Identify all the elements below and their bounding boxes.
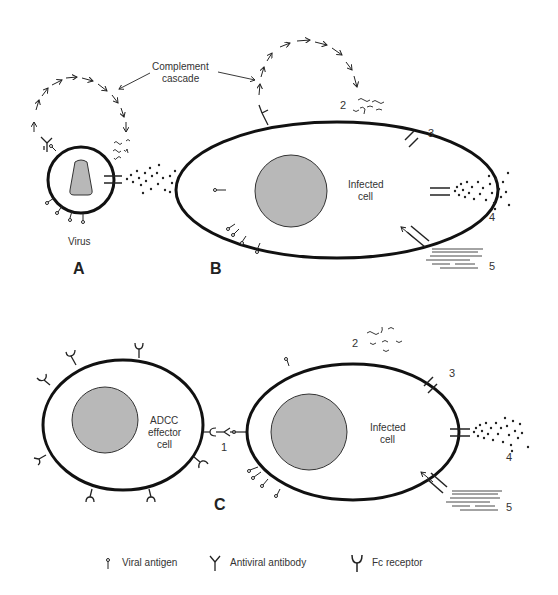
pointer-arrow-b	[218, 72, 255, 80]
viral-antigen-icon	[107, 559, 110, 570]
svg-text:2: 2	[340, 99, 346, 111]
complement-fragments-b	[353, 99, 384, 115]
released-contents-c	[473, 417, 529, 452]
complement-cascade-arrows-a	[34, 77, 126, 132]
panel-c-label: C	[214, 496, 226, 513]
svg-text:cell: cell	[380, 434, 395, 445]
fc-receptor-icon	[352, 555, 362, 572]
svg-text:Complement: Complement	[152, 61, 209, 72]
antiviral-antibody-icon	[259, 105, 268, 125]
svg-text:4: 4	[489, 211, 495, 223]
svg-text:cell: cell	[157, 439, 172, 450]
legend-fc-receptor: Fc receptor	[372, 557, 423, 568]
leaked-lines-c	[446, 491, 502, 510]
panel-a-label: A	[73, 260, 85, 277]
diagram-root: Virus A Complement cascade Infected	[0, 0, 558, 595]
nucleus-c	[271, 394, 347, 470]
pointer-arrow-a	[119, 73, 150, 89]
svg-text:effector: effector	[148, 427, 182, 438]
svg-text:1: 1	[221, 441, 227, 453]
svg-text:3: 3	[428, 127, 434, 139]
panel-c: ADCC effector cell 1 Infected cell	[34, 327, 529, 513]
svg-text:2: 2	[352, 337, 358, 349]
complement-fragments-a	[113, 140, 130, 160]
svg-text:4: 4	[506, 451, 512, 463]
released-contents-a	[126, 164, 176, 194]
complement-cascade-arrows-b	[259, 40, 357, 95]
panel-b-label: B	[210, 260, 222, 277]
leaked-lines-b	[426, 249, 483, 268]
immune-diagram: Virus A Complement cascade Infected	[0, 0, 558, 595]
svg-text:5: 5	[489, 260, 495, 272]
svg-text:cell: cell	[358, 191, 373, 202]
complement-fragments-c	[367, 327, 402, 352]
panel-b: Infected cell	[176, 40, 510, 277]
antiviral-antibody-icon	[210, 556, 220, 571]
adcc-connection	[203, 428, 246, 436]
virus-label: Virus	[68, 236, 91, 247]
svg-text:3: 3	[449, 367, 455, 379]
complement-cascade-label: Complement cascade	[119, 61, 255, 89]
legend-viral-antigen: Viral antigen	[122, 557, 177, 568]
svg-text:cascade: cascade	[162, 73, 200, 84]
nucleus-b	[255, 155, 327, 227]
nucleus-adcc	[72, 387, 138, 453]
legend: Viral antigen Antiviral antibody Fc rece…	[107, 555, 424, 572]
infected-cell-label-b: Infected	[348, 179, 384, 190]
adcc-label: ADCC	[150, 415, 178, 426]
infected-cell-label-c: Infected	[370, 422, 406, 433]
legend-antiviral-antibody: Antiviral antibody	[230, 557, 306, 568]
svg-text:5: 5	[506, 501, 512, 513]
panel-a: Virus A	[34, 77, 176, 277]
